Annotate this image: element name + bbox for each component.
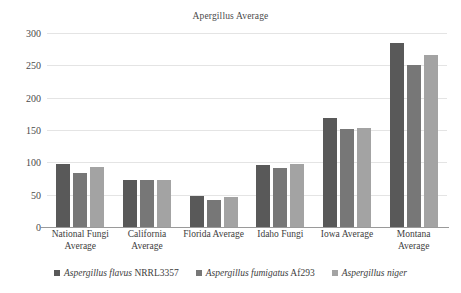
- bar: [407, 65, 421, 227]
- legend-strain-id: Af293: [289, 268, 315, 278]
- y-axis-tick-label: 200: [7, 92, 41, 103]
- legend-species-name: Aspergillus fumigatus: [206, 268, 289, 278]
- legend-strain-id: NRRL3357: [132, 268, 179, 278]
- plot-area: [47, 33, 447, 227]
- bar: [273, 168, 287, 227]
- x-axis-category-line: Average: [374, 241, 453, 253]
- bar: [424, 55, 438, 227]
- bar: [256, 165, 270, 227]
- x-axis-category-line: Montana: [374, 229, 453, 241]
- y-axis: 050100150200250300: [0, 33, 41, 227]
- y-axis-tick-label: 0: [7, 222, 41, 233]
- bar: [340, 129, 354, 227]
- bar: [73, 173, 87, 227]
- x-axis-category-line: Average: [108, 241, 187, 253]
- bar: [323, 118, 337, 227]
- bar: [390, 43, 404, 227]
- bar: [90, 167, 104, 227]
- bar: [157, 180, 171, 227]
- bar-group: [180, 33, 247, 227]
- legend-item[interactable]: Aspergillus niger: [332, 268, 407, 278]
- x-axis-labels: National FungiAverageCaliforniaAverageFl…: [47, 229, 447, 263]
- legend-label: Aspergillus fumigatus Af293: [206, 268, 315, 278]
- legend-species-name: Aspergillus flavus: [64, 268, 132, 278]
- bar: [224, 197, 238, 227]
- legend-label: Aspergillus flavus NRRL3357: [64, 268, 179, 278]
- y-axis-tick-label: 250: [7, 60, 41, 71]
- legend-swatch-icon: [332, 270, 338, 276]
- bar: [357, 128, 371, 227]
- legend-item[interactable]: Aspergillus flavus NRRL3357: [54, 268, 179, 278]
- y-axis-tick-label: 50: [7, 189, 41, 200]
- x-axis-line: [41, 227, 449, 228]
- bar: [290, 164, 304, 227]
- bar: [123, 180, 137, 227]
- bar-group: [247, 33, 314, 227]
- legend-label: Aspergillus niger: [342, 268, 407, 278]
- bar-chart: Apergillus Average 050100150200250300 Na…: [0, 0, 461, 293]
- bar-group: [114, 33, 181, 227]
- legend-swatch-icon: [54, 270, 60, 276]
- bar: [190, 196, 204, 227]
- bar-group: [380, 33, 447, 227]
- chart-title: Apergillus Average: [0, 11, 461, 21]
- y-axis-tick-label: 100: [7, 157, 41, 168]
- legend-item[interactable]: Aspergillus fumigatus Af293: [196, 268, 315, 278]
- legend-swatch-icon: [196, 270, 202, 276]
- bar-group: [314, 33, 381, 227]
- x-axis-category-label: MontanaAverage: [374, 229, 453, 252]
- bar: [207, 200, 221, 227]
- y-axis-tick-label: 300: [7, 28, 41, 39]
- bar: [140, 180, 154, 227]
- chart-legend: Aspergillus flavus NRRL3357Aspergillus f…: [0, 268, 461, 278]
- legend-species-name: Aspergillus niger: [342, 268, 407, 278]
- bar: [56, 164, 70, 227]
- bar-group: [47, 33, 114, 227]
- y-axis-tick-label: 150: [7, 125, 41, 136]
